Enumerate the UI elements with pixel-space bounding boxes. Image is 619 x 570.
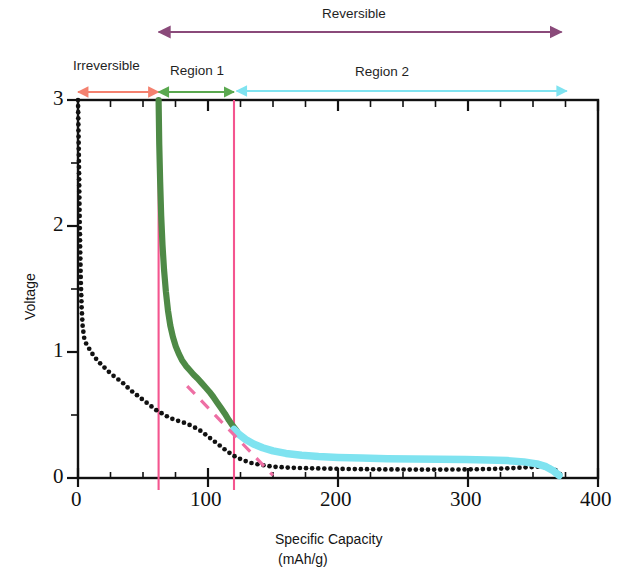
- data-dot: [383, 467, 388, 472]
- data-dot: [159, 411, 164, 416]
- data-dot: [267, 464, 272, 469]
- data-dot: [79, 293, 84, 298]
- data-dot: [389, 467, 394, 472]
- data-dot: [499, 466, 504, 471]
- data-dot: [111, 373, 116, 378]
- data-dot: [493, 466, 498, 471]
- chart-figure: Reversible Irreversible Region 1 Region …: [0, 0, 619, 570]
- data-dot: [79, 287, 84, 292]
- data-dot: [474, 467, 479, 472]
- data-dot: [76, 153, 81, 158]
- data-dot: [76, 128, 81, 133]
- data-dot: [426, 467, 431, 472]
- data-dot: [80, 311, 85, 316]
- data-dot: [316, 466, 321, 471]
- data-dot: [78, 244, 83, 249]
- data-dot: [407, 467, 412, 472]
- data-dot: [76, 104, 81, 109]
- data-dot: [78, 250, 83, 255]
- data-dot: [82, 335, 87, 340]
- data-dot: [279, 465, 284, 470]
- data-dot: [371, 467, 376, 472]
- data-dot: [76, 134, 81, 139]
- data-dot: [227, 451, 232, 456]
- data-dot: [273, 464, 278, 469]
- data-dot: [238, 457, 243, 462]
- data-dot: [193, 425, 198, 430]
- data-dot: [243, 459, 248, 464]
- data-dot: [78, 238, 83, 243]
- data-dot: [87, 346, 92, 351]
- data-dot: [346, 467, 351, 472]
- data-dot: [481, 467, 486, 472]
- data-dot: [121, 381, 126, 386]
- data-dot: [79, 305, 84, 310]
- data-dot: [149, 404, 154, 409]
- data-dot: [77, 189, 82, 194]
- data-dot: [352, 467, 357, 472]
- data-dot: [365, 467, 370, 472]
- data-dot: [203, 432, 208, 437]
- data-dot: [102, 365, 107, 370]
- data-dot: [164, 414, 169, 419]
- data-dot: [80, 317, 85, 322]
- data-dot: [77, 226, 82, 231]
- data-dot: [322, 466, 327, 471]
- data-dot: [462, 467, 467, 472]
- data-dot: [511, 466, 516, 471]
- data-dot: [78, 268, 83, 273]
- data-dot: [377, 467, 382, 472]
- data-dot: [77, 165, 82, 170]
- data-dot: [139, 397, 144, 402]
- data-dot: [81, 329, 86, 334]
- data-dot: [77, 201, 82, 206]
- data-dot: [285, 465, 290, 470]
- data-dot: [222, 447, 227, 452]
- axes-group: [67, 100, 598, 487]
- data-dot: [76, 116, 81, 121]
- data-dot: [334, 466, 339, 471]
- data-dot: [198, 428, 203, 433]
- series-discharge: [76, 98, 563, 477]
- data-dot: [76, 140, 81, 145]
- data-dot: [77, 195, 82, 200]
- data-dot: [76, 110, 81, 115]
- data-dot: [77, 171, 82, 176]
- data-dot: [130, 389, 135, 394]
- data-dot: [77, 214, 82, 219]
- data-dot: [468, 467, 473, 472]
- data-dot: [144, 400, 149, 405]
- data-dot: [94, 356, 99, 361]
- plot-frame: [78, 100, 598, 478]
- data-dot: [90, 352, 95, 357]
- data-dot: [432, 467, 437, 472]
- data-dot: [176, 418, 181, 423]
- series-charge-region-1: [159, 100, 237, 431]
- span-arrow-group: [78, 32, 567, 92]
- data-dot: [438, 467, 443, 472]
- data-dot: [232, 454, 237, 459]
- data-dot: [395, 467, 400, 472]
- data-dot: [340, 467, 345, 472]
- plot-canvas: [0, 0, 619, 570]
- data-dot: [135, 393, 140, 398]
- data-dot: [413, 467, 418, 472]
- data-dot: [187, 423, 192, 428]
- data-dot: [310, 466, 315, 471]
- data-dot: [76, 98, 81, 103]
- data-dot: [76, 122, 81, 127]
- data-dot: [444, 467, 449, 472]
- data-dot: [505, 466, 510, 471]
- data-dot: [328, 466, 333, 471]
- data-dot: [401, 467, 406, 472]
- data-dot: [182, 420, 187, 425]
- data-dot: [79, 299, 84, 304]
- data-dot: [77, 159, 82, 164]
- data-dot: [456, 467, 461, 472]
- data-dot: [125, 385, 130, 390]
- data-dot: [170, 416, 175, 421]
- data-curves-group: [76, 98, 563, 477]
- data-dot: [107, 370, 112, 375]
- data-dot: [116, 377, 121, 382]
- data-dot: [84, 341, 89, 346]
